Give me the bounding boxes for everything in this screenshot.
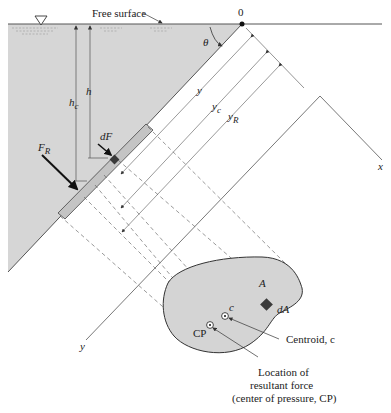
centroid-point-label: c <box>229 301 234 313</box>
dA-label: dA <box>277 303 290 315</box>
h-label: h <box>86 85 92 97</box>
area-label: A <box>258 277 266 289</box>
dF-label: dF <box>100 130 113 142</box>
cp-callout-line2: resultant force <box>250 379 313 391</box>
origin-label: 0 <box>238 6 244 18</box>
cp-callout-line1: Location of <box>258 366 309 378</box>
centroid-dot <box>224 315 226 317</box>
y-label: y <box>196 84 202 96</box>
origin-point <box>240 22 245 27</box>
origin-perpendicular <box>246 28 304 88</box>
hydrostatic-diagram: Free surface 0 θ h hc dF FR y yc yR x y <box>0 0 391 413</box>
free-surface-label: Free surface <box>92 7 146 19</box>
yR-label: yR <box>227 110 239 125</box>
cp-callout-line3: (center of pressure, CP) <box>232 392 337 405</box>
y-axis-label: y <box>79 340 85 352</box>
theta-label: θ <box>203 36 209 48</box>
cp-dot <box>209 324 211 326</box>
cp-point-label: CP <box>193 327 206 339</box>
x-axis-line <box>320 96 382 160</box>
x-axis-label: x <box>377 160 383 172</box>
centroid-callout: Centroid, c <box>286 333 335 345</box>
yc-label: yc <box>211 100 221 115</box>
